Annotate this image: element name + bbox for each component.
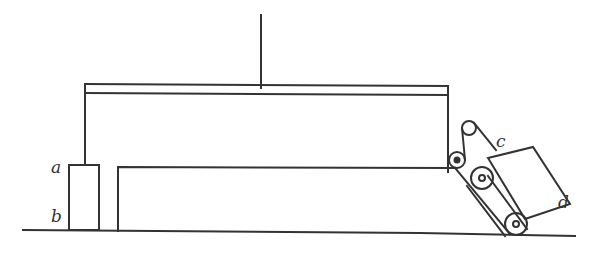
label-a: a <box>51 157 61 177</box>
incline-edge <box>455 168 510 234</box>
box-ab <box>69 165 99 230</box>
label-c: c <box>496 131 506 151</box>
ground-line <box>23 230 575 236</box>
label-d: d <box>558 192 569 212</box>
horizontal-beam <box>85 84 448 95</box>
long-block <box>118 167 455 231</box>
pulley-string <box>462 123 496 160</box>
apparatus-diagram: a b c d <box>0 0 602 260</box>
guide-pulley-small <box>449 152 465 168</box>
label-b: b <box>51 206 62 226</box>
